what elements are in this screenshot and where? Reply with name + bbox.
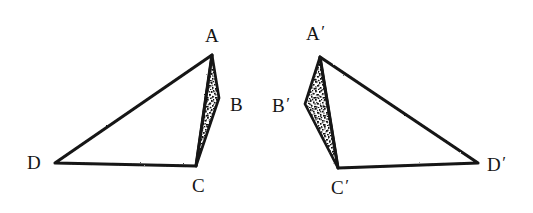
vertex-label-c: C [192,176,205,195]
outline-triangle-acd-prime [320,57,478,168]
figure-canvas [0,0,533,213]
vertex-label-a-prime-text: A [306,23,320,44]
vertex-label-d-prime-mark: ′ [502,153,506,172]
right-figure-group [305,57,478,168]
vertex-label-b-text: B [230,94,243,115]
vertex-label-a-text: A [205,25,219,46]
vertex-label-b: B [230,95,243,114]
vertex-label-c-prime-group: C′ [331,178,348,197]
vertex-label-d-text: D [27,152,41,173]
vertex-label-a-prime-mark: ′ [321,22,325,41]
vertex-label-b-prime-group: B′ [272,96,289,115]
vertex-label-c-text: C [192,175,205,196]
vertex-label-a-prime-group: A′ [306,24,324,43]
vertex-label-c-prime-mark: ′ [345,176,349,195]
vertex-label-b-prime-text: B [272,95,285,116]
geometry-figure: A B C D A′ B′ C′ D′ [0,0,533,213]
vertex-label-a: A [205,26,219,45]
vertex-label-d-prime-text: D [487,154,501,175]
vertex-label-c-prime-text: C [331,177,344,198]
vertex-label-b-prime-mark: ′ [286,94,290,113]
left-figure-group [55,55,219,166]
outline-triangle-acd [55,55,212,166]
vertex-label-d-prime-group: D′ [487,155,505,174]
vertex-label-d: D [27,153,41,172]
